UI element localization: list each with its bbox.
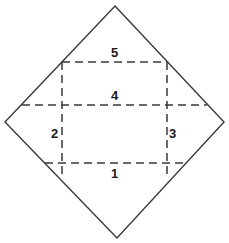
diagram-canvas: 5 4 2 3 1	[0, 0, 229, 243]
diamond-outline	[5, 6, 224, 238]
fold-label-3: 3	[169, 127, 176, 140]
fold-label-2: 2	[51, 127, 58, 140]
fold-label-1: 1	[111, 167, 118, 180]
diamond-fold-diagram	[0, 0, 229, 243]
fold-label-4: 4	[111, 89, 118, 102]
fold-label-5: 5	[111, 46, 118, 59]
